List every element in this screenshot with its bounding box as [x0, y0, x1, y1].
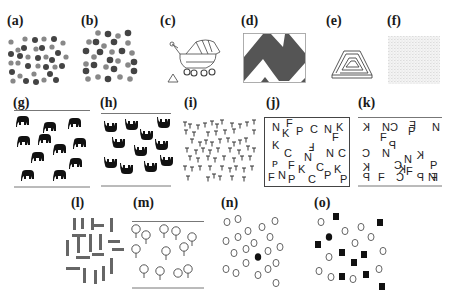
svg-text:K: K [272, 139, 280, 151]
target-filled-circle [326, 233, 332, 241]
svg-text:C: C [394, 159, 402, 171]
svg-text:K: K [362, 121, 370, 133]
triangle-icon [168, 74, 178, 82]
svg-text:C: C [316, 161, 324, 173]
target-filled-circle [255, 253, 261, 261]
panel-label-c: (c) [160, 14, 176, 28]
svg-text:F: F [268, 171, 275, 183]
svg-text:P: P [430, 159, 437, 171]
svg-text:P: P [324, 169, 331, 181]
svg-text:C: C [308, 173, 316, 185]
svg-text:P: P [288, 173, 295, 185]
impossible-spiral-icon [330, 49, 374, 81]
t-letters-figure [182, 120, 258, 186]
svg-text:F: F [380, 131, 387, 143]
panel-label-n: (n) [221, 196, 238, 210]
faint-texture-figure [388, 36, 440, 84]
svg-text:C: C [396, 171, 404, 183]
svg-text:K: K [298, 163, 306, 175]
svg-text:ᴩ: ᴩ [272, 157, 278, 169]
svg-text:N: N [272, 121, 280, 133]
svg-text:P: P [408, 125, 415, 137]
panel-label-j: (j) [266, 96, 280, 110]
panel-label-d: (d) [241, 14, 258, 28]
svg-text:F: F [332, 131, 339, 143]
open-circles-figure [222, 213, 284, 293]
svg-text:P: P [417, 171, 424, 183]
panel-label-h: (h) [100, 96, 117, 110]
svg-text:N: N [428, 171, 436, 183]
svg-text:C: C [362, 147, 370, 159]
svg-text:C: C [310, 123, 318, 135]
svg-text:K: K [282, 127, 290, 139]
panel-label-b: (b) [81, 14, 98, 28]
upright-elephants-figure [14, 110, 92, 188]
circles-with-stems-figure [132, 221, 204, 289]
svg-text:K: K [416, 149, 424, 161]
svg-text:N: N [432, 121, 440, 133]
svg-text:P: P [363, 171, 370, 183]
svg-text:C: C [284, 147, 292, 159]
panel-label-a: (a) [7, 14, 23, 28]
svg-text:N: N [404, 153, 412, 165]
mirrored-letters-figure: KFKKKF CCCC PPP NPNF NNFP FN [358, 117, 442, 187]
dots-figure-b [84, 31, 142, 85]
svg-text:F: F [288, 159, 295, 171]
svg-text:N: N [278, 169, 286, 181]
panel-label-g: (g) [13, 96, 29, 110]
svg-text:F: F [406, 165, 413, 177]
svg-text:F: F [378, 171, 385, 183]
dots-figure-a [8, 36, 68, 86]
panel-label-i: (i) [184, 96, 197, 110]
svg-text:C: C [390, 121, 398, 133]
svg-text:N: N [304, 151, 312, 163]
svg-text:N: N [324, 123, 332, 135]
panel-label-e: (e) [326, 14, 342, 28]
panel-label-o: (o) [314, 196, 330, 210]
svg-text:N: N [382, 147, 390, 159]
circles-squares-figure [313, 213, 385, 293]
svg-text:P: P [340, 173, 347, 185]
svg-text:P: P [296, 125, 303, 137]
bars-figure [64, 218, 124, 286]
zigzag-figure [243, 33, 306, 83]
panel-label-m: (m) [133, 196, 154, 210]
panel-label-k: (k) [358, 96, 375, 110]
svg-text:C: C [338, 147, 346, 159]
panel-label-f: (f) [387, 14, 401, 28]
stroller-icon [166, 36, 226, 84]
letters-box-figure: NFKPCNKF KCℲNNC ᴩFKCPK FNPCP [264, 117, 350, 187]
svg-text:N: N [326, 147, 334, 159]
panel-label-l: (l) [71, 196, 84, 210]
inverted-elephants-figure [101, 113, 173, 187]
